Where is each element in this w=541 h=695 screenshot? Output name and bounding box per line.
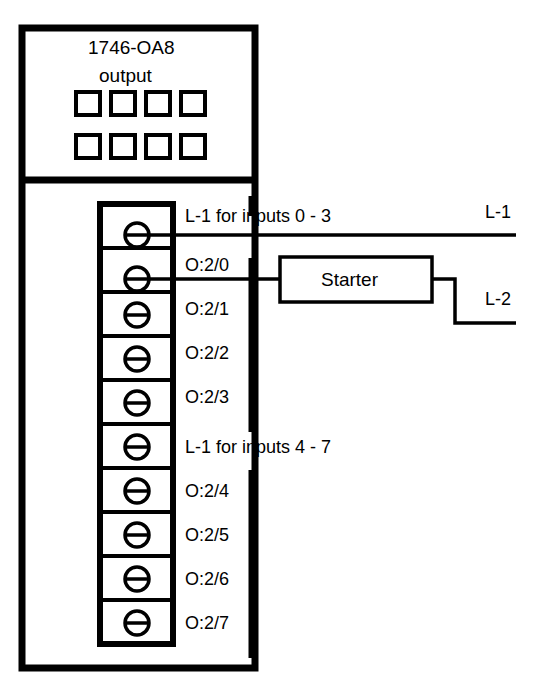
terminal-label-t0: L-1 for inputs 0 - 3 bbox=[185, 207, 331, 225]
terminal-label-t4: O:2/3 bbox=[185, 388, 229, 406]
led-indicator bbox=[181, 92, 205, 115]
screw-terminal-icon[interactable] bbox=[125, 479, 149, 503]
led-indicator bbox=[111, 92, 135, 115]
screw-terminal-icon[interactable] bbox=[125, 303, 149, 327]
terminal-label-t7: O:2/5 bbox=[185, 526, 229, 544]
starter-block-label: Starter bbox=[321, 270, 378, 289]
screw-terminal-icon[interactable] bbox=[125, 223, 149, 247]
screw-terminal-icon[interactable] bbox=[125, 523, 149, 547]
screw-terminal-icon[interactable] bbox=[125, 611, 149, 635]
led-indicator bbox=[181, 135, 205, 158]
led-indicator bbox=[146, 135, 170, 158]
screw-terminal-icon[interactable] bbox=[125, 347, 149, 371]
screw-terminal-icon[interactable] bbox=[125, 435, 149, 459]
rail-label-l1: L-1 bbox=[485, 203, 511, 221]
rail-label-l2: L-2 bbox=[485, 290, 511, 308]
terminal-label-t3: O:2/2 bbox=[185, 344, 229, 362]
module-subtitle: output bbox=[99, 66, 152, 85]
terminal-label-t1: O:2/0 bbox=[185, 256, 229, 274]
terminal-label-t5: L-1 for inputs 4 - 7 bbox=[185, 438, 331, 456]
diagram-canvas bbox=[0, 0, 541, 695]
screw-terminal-icon[interactable] bbox=[125, 567, 149, 591]
led-indicator bbox=[76, 135, 100, 158]
screw-terminal-icon[interactable] bbox=[125, 267, 149, 291]
module-title: 1746-OA8 bbox=[88, 38, 175, 57]
screw-terminal-icon[interactable] bbox=[125, 391, 149, 415]
terminal-label-t8: O:2/6 bbox=[185, 570, 229, 588]
terminal-label-t2: O:2/1 bbox=[185, 300, 229, 318]
wiring-diagram: 1746-OA8 output L-1 for inputs 0 - 3 O:2… bbox=[0, 0, 541, 695]
led-indicator bbox=[146, 92, 170, 115]
terminal-block bbox=[100, 204, 173, 644]
terminal-label-t6: O:2/4 bbox=[185, 482, 229, 500]
terminal-label-t9: O:2/7 bbox=[185, 614, 229, 632]
led-indicator bbox=[76, 92, 100, 115]
led-indicator bbox=[111, 135, 135, 158]
